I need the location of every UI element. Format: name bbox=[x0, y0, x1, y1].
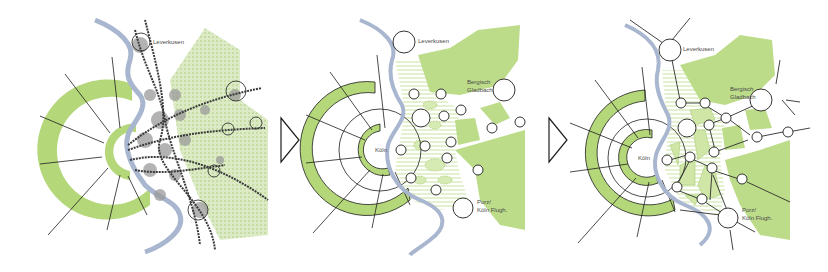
diagram-network: Leverkusen Bergisch Gladbach Köln Porz/ … bbox=[550, 0, 828, 272]
outer-green-ring bbox=[585, 90, 675, 216]
green-hatched-land bbox=[170, 28, 268, 240]
circle-leverkusen bbox=[393, 31, 415, 53]
label-bergisch: Bergisch bbox=[467, 79, 490, 85]
circle-bergisch-gladbach bbox=[493, 79, 515, 101]
panel-existing-structure: Leverkusen bbox=[0, 0, 280, 272]
panel-network-structure: Leverkusen Bergisch Gladbach Köln Porz/ … bbox=[550, 0, 828, 272]
label-leverkusen: Leverkusen bbox=[153, 39, 184, 45]
green-area-mid bbox=[480, 102, 510, 125]
label-koln: Köln bbox=[375, 147, 387, 153]
diagram-green-structure: Leverkusen Bergisch Gladbach Köln Porz/ … bbox=[280, 0, 550, 272]
label-koln-flughafen: Köln Flugh. bbox=[477, 207, 508, 213]
green-area-small bbox=[455, 118, 480, 145]
label-porz: Porz/ bbox=[742, 207, 756, 213]
label-koln-flughafen: Köln Flugh. bbox=[742, 215, 773, 221]
panel-green-structure: Leverkusen Bergisch Gladbach Köln Porz/ … bbox=[280, 0, 550, 272]
label-gladbach: Gladbach bbox=[730, 94, 756, 100]
green-area-mid bbox=[745, 108, 772, 130]
node-porz bbox=[718, 208, 738, 228]
diagram-existing: Leverkusen bbox=[0, 0, 280, 272]
circle-porz bbox=[453, 198, 473, 218]
label-leverkusen: Leverkusen bbox=[683, 46, 714, 52]
label-gladbach: Gladbach bbox=[467, 87, 493, 93]
outer-green-ring bbox=[300, 82, 410, 216]
node-bergisch-gladbach bbox=[750, 89, 772, 111]
label-porz: Porz/ bbox=[477, 199, 491, 205]
node-leverkusen bbox=[659, 39, 681, 61]
label-koln: Köln bbox=[638, 155, 650, 161]
outer-green-ring bbox=[37, 80, 150, 220]
label-leverkusen: Leverkusen bbox=[418, 38, 449, 44]
label-bergisch: Bergisch bbox=[730, 86, 753, 92]
